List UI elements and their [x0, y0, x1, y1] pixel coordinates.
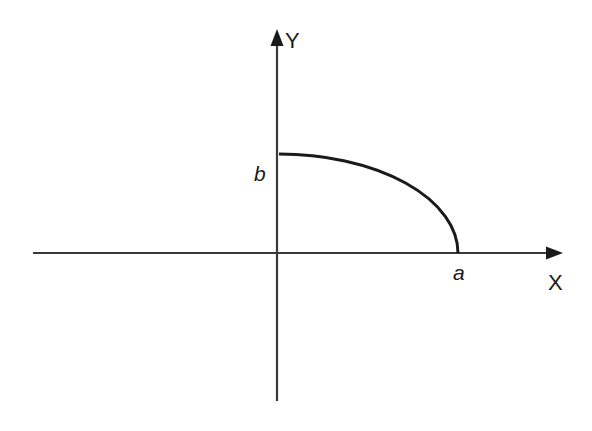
ellipse-quadrant-curve [279, 154, 458, 253]
x-intercept-label-a: a [453, 261, 465, 284]
y-axis-arrow-icon [271, 29, 284, 46]
x-axis-label: X [548, 270, 563, 295]
x-axis [33, 247, 563, 260]
y-intercept-label-b: b [254, 162, 266, 185]
y-axis-label: Y [285, 28, 300, 53]
x-axis-arrow-icon [546, 247, 563, 260]
ellipse-quadrant-diagram: Y X b a [0, 0, 592, 431]
y-axis [271, 29, 284, 401]
